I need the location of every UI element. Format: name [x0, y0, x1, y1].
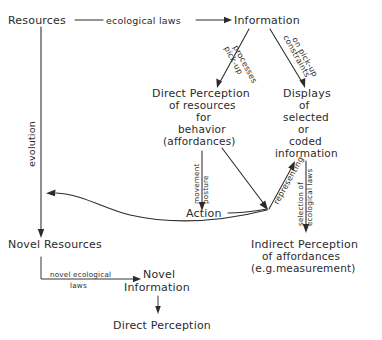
arrowhead-into-novel-resources: [38, 229, 44, 238]
node-direct-perception-bottom: Direct Perception: [113, 319, 211, 332]
diagram-canvas-container: Resources ecological laws Information ev…: [0, 0, 382, 340]
edge-label-posture: posture: [201, 175, 210, 204]
edge-label-novel-ecological-line2: laws: [70, 281, 87, 290]
node-displays-line4: or: [298, 123, 310, 135]
node-novel-information-line1: Novel: [143, 268, 175, 281]
node-direct-perception-line3: for: [196, 111, 212, 123]
edge-label-evolution: evolution: [26, 121, 37, 167]
node-action: Action: [186, 207, 222, 220]
edge-label-selection-line1: selection of: [296, 182, 305, 226]
node-displays-line3: selected: [283, 111, 329, 123]
arrowhead-into-direct-perception-bottom: [155, 306, 161, 314]
concept-diagram: Resources ecological laws Information ev…: [0, 0, 382, 340]
node-direct-perception-line4: behavior: [178, 123, 226, 135]
node-direct-perception-line5: (affordances): [163, 135, 236, 147]
node-displays-line5: coded: [289, 135, 322, 147]
arrowhead-into-information: [224, 17, 232, 23]
edge-affordances-to-junction: [222, 148, 264, 204]
node-displays-line2: of: [299, 99, 310, 111]
edge-action-to-evolution: [56, 193, 267, 221]
edge-label-movement: movement: [192, 164, 201, 204]
node-information: Information: [234, 14, 300, 27]
edge-label-selection-line2: ecological laws: [305, 169, 314, 226]
edge-label-ecological-laws: ecological laws: [106, 15, 181, 26]
node-indirect-perception-line2: of affordances: [262, 250, 340, 262]
node-direct-perception-line2: of resources: [169, 99, 236, 111]
node-displays-line6: information: [275, 147, 338, 159]
arrowhead-into-evolution: [46, 190, 56, 197]
node-indirect-perception-line3: (e.g.measurement): [251, 262, 356, 274]
node-novel-resources: Novel Resources: [8, 238, 102, 251]
node-novel-information-line2: Information: [124, 281, 190, 294]
edge-label-novel-ecological-line1: novel ecological: [50, 270, 111, 279]
node-resources: Resources: [8, 14, 66, 27]
